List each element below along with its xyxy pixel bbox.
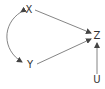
edge-x-y-bidirected (7, 12, 22, 62)
node-y-label: Y (27, 60, 33, 70)
node-z-label: Z (94, 31, 101, 41)
node-u-label: U (93, 75, 100, 85)
edge-x-to-z (35, 10, 91, 33)
diagram-canvas (0, 0, 105, 89)
edge-y-to-z (37, 39, 91, 64)
node-x-label: X (26, 5, 33, 15)
